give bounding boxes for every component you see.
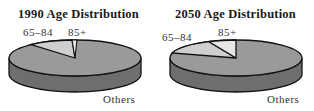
chart-title: 2050 Age Distribution bbox=[157, 7, 314, 22]
label-65-84: 65–84 bbox=[23, 26, 53, 38]
chart-1990: 1990 Age Distribution 65–84 85+ Others bbox=[0, 0, 157, 111]
label-others: Others bbox=[267, 93, 299, 105]
label-85-plus: 85+ bbox=[68, 26, 87, 38]
label-65-84: 65–84 bbox=[162, 31, 192, 43]
label-others: Others bbox=[103, 93, 135, 105]
chart-2050: 2050 Age Distribution 65–84 85+ Others bbox=[157, 0, 314, 111]
chart-title: 1990 Age Distribution bbox=[0, 7, 157, 22]
label-85-plus: 85+ bbox=[218, 26, 237, 38]
